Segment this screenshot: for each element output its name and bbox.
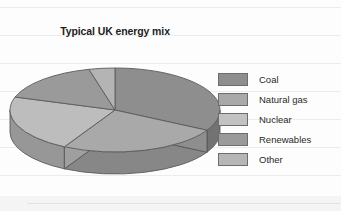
legend-item-label: Renewables bbox=[259, 134, 311, 145]
background-gridline bbox=[0, 7, 341, 8]
pie-3d-svg bbox=[0, 40, 230, 200]
legend-item-label: Coal bbox=[259, 74, 279, 85]
pie-chart-figure: Typical UK energy mix CoalNatural gasNuc… bbox=[0, 0, 341, 211]
legend-item-label: Natural gas bbox=[259, 94, 308, 105]
legend-swatch-icon bbox=[218, 133, 248, 146]
legend-item-renewables[interactable]: Renewables bbox=[218, 129, 338, 149]
page-bottom-band-edge bbox=[27, 203, 341, 204]
legend-swatch-icon bbox=[218, 113, 248, 126]
chart-title: Typical UK energy mix bbox=[0, 25, 230, 37]
pie-slices-group bbox=[10, 68, 220, 174]
chart-legend: CoalNatural gasNuclearRenewablesOther bbox=[218, 69, 338, 169]
legend-item-coal[interactable]: Coal bbox=[218, 69, 338, 89]
legend-item-nuclear[interactable]: Nuclear bbox=[218, 109, 338, 129]
legend-item-label: Nuclear bbox=[259, 114, 292, 125]
legend-swatch-icon bbox=[218, 93, 248, 106]
legend-item-natural-gas[interactable]: Natural gas bbox=[218, 89, 338, 109]
legend-item-other[interactable]: Other bbox=[218, 149, 338, 169]
legend-swatch-icon bbox=[218, 73, 248, 86]
pie-plot-area bbox=[0, 40, 230, 200]
legend-swatch-icon bbox=[218, 153, 248, 166]
legend-item-label: Other bbox=[259, 154, 283, 165]
